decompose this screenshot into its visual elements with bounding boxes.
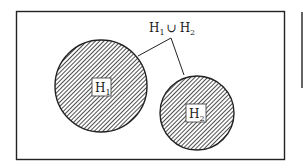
union-connector (138, 38, 184, 75)
union-label: H1∪H2 (149, 21, 195, 37)
venn-diagram: H1 H2 H1∪H2 (0, 0, 303, 165)
